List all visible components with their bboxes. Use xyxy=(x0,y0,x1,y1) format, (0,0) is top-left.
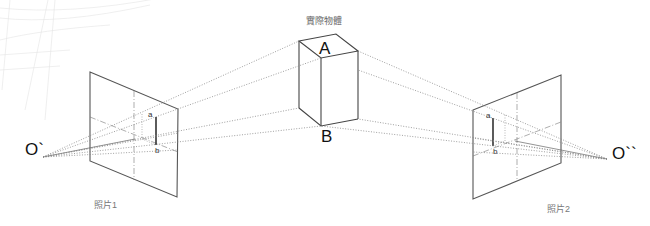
photo-1-caption: 照片1 xyxy=(94,201,117,210)
stereo-projection-diagram xyxy=(0,0,650,226)
origin-right-label: O`` xyxy=(612,145,637,162)
photo-2-plane xyxy=(473,75,607,199)
point-b-label: B xyxy=(321,128,332,145)
projection-rays-right xyxy=(321,51,607,159)
right-a-label: a xyxy=(486,112,490,120)
right-b-label: b xyxy=(493,148,497,156)
object-title: 實際物體 xyxy=(306,17,342,26)
origin-left-label: O` xyxy=(25,141,44,158)
photo-1-plane xyxy=(43,72,178,197)
photo-2-caption: 照片2 xyxy=(547,205,570,214)
left-a-label: a xyxy=(148,111,152,119)
projection-rays-left xyxy=(43,41,321,157)
point-a-label: A xyxy=(319,40,330,57)
background-sketch xyxy=(0,0,160,120)
left-b-label: b xyxy=(155,147,159,155)
